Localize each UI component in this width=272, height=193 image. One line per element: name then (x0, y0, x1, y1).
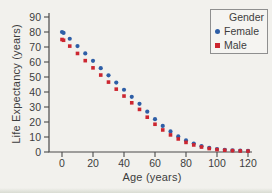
legend-item-male: Male (214, 38, 264, 52)
y-axis-label: Life Expectancy (years) (10, 19, 22, 149)
data-point-female (153, 117, 157, 121)
legend-item-female: Female (214, 24, 264, 38)
data-point-female (130, 95, 134, 99)
data-point-female (99, 66, 103, 70)
data-point-male (138, 108, 142, 112)
data-point-male (215, 148, 219, 152)
female-marker-icon (215, 29, 220, 34)
data-point-female (161, 124, 165, 128)
y-tick-label: 90 (29, 11, 41, 23)
y-tick-label: 40 (29, 86, 41, 98)
x-tick-label: 20 (87, 157, 99, 169)
data-point-male (153, 122, 157, 126)
data-point-female (122, 88, 126, 92)
male-marker-icon (215, 43, 220, 48)
data-point-female (61, 31, 65, 35)
data-point-female (68, 37, 72, 41)
data-point-female (145, 110, 149, 114)
y-tick-label: 80 (29, 26, 41, 38)
data-point-male (169, 133, 173, 137)
data-point-male (122, 94, 126, 98)
data-point-female (114, 80, 118, 84)
data-point-male (114, 87, 118, 91)
x-tick-label: 60 (149, 157, 161, 169)
legend: Gender Female Male (210, 9, 268, 54)
data-point-male (130, 101, 134, 105)
x-tick-label: 40 (118, 157, 130, 169)
data-point-female (91, 59, 95, 63)
data-point-male (145, 115, 149, 119)
legend-label-male: Male (224, 38, 247, 52)
y-tick-label: 10 (29, 131, 41, 143)
y-tick-label: 0 (35, 146, 41, 158)
data-point-female (75, 44, 79, 48)
y-tick-label: 70 (29, 41, 41, 53)
data-point-male (68, 44, 72, 48)
data-point-male (223, 148, 227, 152)
data-point-male (200, 145, 204, 149)
data-point-male (99, 73, 103, 77)
data-point-male (246, 149, 250, 153)
legend-title: Gender (214, 11, 264, 24)
data-point-male (107, 80, 111, 84)
data-point-male (238, 149, 242, 153)
data-point-male (231, 149, 235, 153)
data-point-male (184, 141, 188, 145)
data-point-male (192, 143, 196, 147)
x-tick-label: 100 (208, 157, 226, 169)
data-point-male (91, 66, 95, 70)
life-expectancy-chart: 0102030405060708090020406080100120 Life … (0, 0, 272, 193)
data-point-male (83, 59, 87, 63)
y-tick-label: 50 (29, 71, 41, 83)
data-point-male (161, 128, 165, 132)
data-point-male (62, 38, 66, 42)
data-point-female (168, 129, 172, 133)
x-tick-label: 80 (180, 157, 192, 169)
x-tick-label: 0 (59, 157, 65, 169)
y-tick-label: 20 (29, 116, 41, 128)
x-tick-label: 120 (239, 157, 257, 169)
y-tick-label: 60 (29, 56, 41, 68)
data-point-female (106, 73, 110, 77)
data-point-female (83, 51, 87, 55)
x-axis-label: Age (years) (92, 171, 212, 183)
data-point-male (207, 147, 211, 151)
data-point-male (76, 52, 80, 56)
data-point-female (137, 102, 141, 106)
y-tick-label: 30 (29, 101, 41, 113)
data-point-male (176, 137, 180, 141)
legend-label-female: Female (224, 24, 259, 38)
